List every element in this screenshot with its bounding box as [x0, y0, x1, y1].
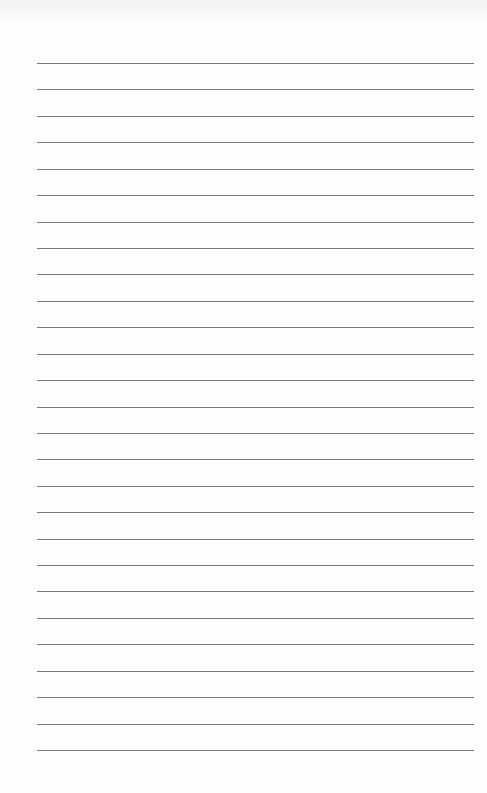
- ruled-line: [37, 222, 474, 223]
- ruled-line: [37, 116, 474, 117]
- ruled-line: [37, 618, 474, 619]
- ruled-line: [37, 565, 474, 566]
- ruled-line: [37, 248, 474, 249]
- ruled-line: [37, 169, 474, 170]
- ruled-line: [37, 512, 474, 513]
- scan-top-shadow: [0, 0, 487, 30]
- ruled-line: [37, 380, 474, 381]
- ruled-line: [37, 327, 474, 328]
- ruled-line: [37, 486, 474, 487]
- ruled-line: [37, 724, 474, 725]
- ruled-line: [37, 644, 474, 645]
- ruled-line: [37, 407, 474, 408]
- ruled-line: [37, 274, 474, 275]
- ruled-line: [37, 301, 474, 302]
- ruled-line: [37, 750, 474, 751]
- ruled-paper-page: [0, 0, 487, 793]
- ruled-line: [37, 63, 474, 64]
- ruled-line: [37, 354, 474, 355]
- ruled-line: [37, 89, 474, 90]
- ruled-line: [37, 697, 474, 698]
- ruled-line: [37, 539, 474, 540]
- ruled-line: [37, 671, 474, 672]
- ruled-line: [37, 195, 474, 196]
- ruled-line: [37, 142, 474, 143]
- ruled-line: [37, 459, 474, 460]
- ruled-line: [37, 433, 474, 434]
- ruled-line: [37, 591, 474, 592]
